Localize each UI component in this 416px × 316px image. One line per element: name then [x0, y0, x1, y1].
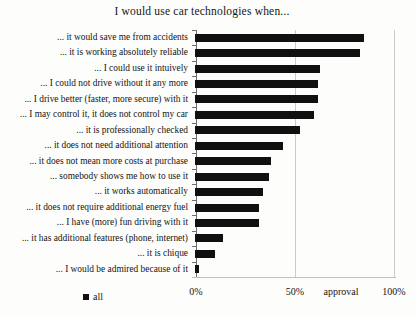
chart-row: ... somebody shows me how to use it	[0, 169, 395, 184]
x-tick-50: 50%	[286, 286, 304, 297]
chart-row: ... it has additional features (phone, i…	[0, 231, 395, 246]
bar	[195, 250, 215, 258]
chart-rows: ... it would save me from accidents... i…	[0, 30, 395, 277]
bar	[195, 111, 314, 119]
bar-track	[194, 92, 395, 107]
chart-row: ... it does not need additional attentio…	[0, 138, 395, 153]
bar	[195, 65, 320, 73]
category-label: ... it does not require additional energ…	[0, 203, 194, 212]
category-label: ... it does not mean more costs at purch…	[0, 157, 194, 166]
category-label: ... it has additional features (phone, i…	[0, 234, 194, 243]
chart-row: ... it is professionally checked	[0, 123, 395, 138]
category-label: ... I drive better (faster, more secure)…	[0, 95, 194, 104]
bar-track	[194, 138, 395, 153]
bar	[195, 142, 283, 150]
legend: all	[83, 291, 103, 302]
bar	[195, 204, 259, 212]
chart-row: ... it would save me from accidents	[0, 30, 395, 45]
chart-row: ... I would be admired because of it	[0, 262, 395, 277]
bar	[195, 126, 300, 134]
chart-row: ... I may control it, it does not contro…	[0, 107, 395, 122]
bar	[195, 34, 364, 42]
chart-title: I would use car technologies when...	[0, 5, 404, 17]
bar-track	[194, 200, 395, 215]
chart-row: ... it does not mean more costs at purch…	[0, 154, 395, 169]
bar-track	[194, 107, 395, 122]
bar-track	[194, 246, 395, 261]
bar	[195, 188, 263, 196]
chart-row: ... it is chique	[0, 246, 395, 261]
chart-row: ... it does not require additional energ…	[0, 200, 395, 215]
bar-track	[194, 76, 395, 91]
category-label: ... it does not need additional attentio…	[0, 141, 194, 150]
chart: I would use car technologies when... ...…	[0, 0, 416, 316]
bar	[195, 157, 271, 165]
bar	[195, 219, 259, 227]
category-label: ... I could not drive without it any mor…	[0, 79, 194, 88]
bar-track	[194, 169, 395, 184]
legend-swatch-icon	[83, 294, 89, 300]
legend-label: all	[93, 291, 103, 302]
category-label: ... I may control it, it does not contro…	[0, 110, 194, 119]
category-label: ... I would be admired because of it	[0, 265, 194, 274]
x-axis-line	[192, 277, 396, 278]
bar-track	[194, 61, 395, 76]
x-tick-0: 0%	[189, 286, 202, 297]
bar-track	[194, 184, 395, 199]
category-label: ... I have (more) fun driving with it	[0, 218, 194, 227]
category-label: ... I could use it intuively	[0, 64, 194, 73]
chart-row: ... it works automatically	[0, 184, 395, 199]
chart-row: ... I could use it intuively	[0, 61, 395, 76]
chart-row: ... I could not drive without it any mor…	[0, 76, 395, 91]
bar-track	[194, 123, 395, 138]
bar-track	[194, 45, 395, 60]
category-label: ... it would save me from accidents	[0, 33, 194, 42]
x-tick-100: 100%	[382, 286, 405, 297]
bar-track	[194, 215, 395, 230]
bar-track	[194, 30, 395, 45]
category-label: ... it works automatically	[0, 187, 194, 196]
bar-track	[194, 154, 395, 169]
chart-row: ... I drive better (faster, more secure)…	[0, 92, 395, 107]
category-label: ... it is professionally checked	[0, 126, 194, 135]
chart-row: ... I have (more) fun driving with it	[0, 215, 395, 230]
bar	[195, 265, 199, 273]
category-label: ... somebody shows me how to use it	[0, 172, 194, 181]
category-label: ... it is chique	[0, 249, 194, 258]
bar	[195, 80, 318, 88]
bar-track	[194, 231, 395, 246]
bar-track	[194, 262, 395, 277]
bar	[195, 49, 360, 57]
chart-row: ... it is working absolutely reliable	[0, 45, 395, 60]
bar	[195, 173, 269, 181]
category-label: ... it is working absolutely reliable	[0, 48, 194, 57]
x-axis-title: approval	[324, 286, 359, 297]
bar	[195, 234, 223, 242]
bar	[195, 95, 318, 103]
